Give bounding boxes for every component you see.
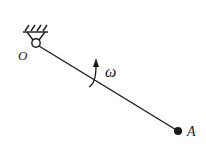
diagram-canvas: O A ω [0, 0, 206, 159]
pivot-label: O [18, 48, 28, 63]
point-mass-icon [174, 127, 182, 135]
omega-label: ω [105, 63, 116, 80]
angular-velocity-arrow-icon [89, 58, 99, 87]
fixed-support-icon [23, 25, 48, 40]
endpoint-label: A [186, 124, 196, 139]
rod [39, 46, 178, 131]
pin-joint-icon [32, 39, 40, 47]
